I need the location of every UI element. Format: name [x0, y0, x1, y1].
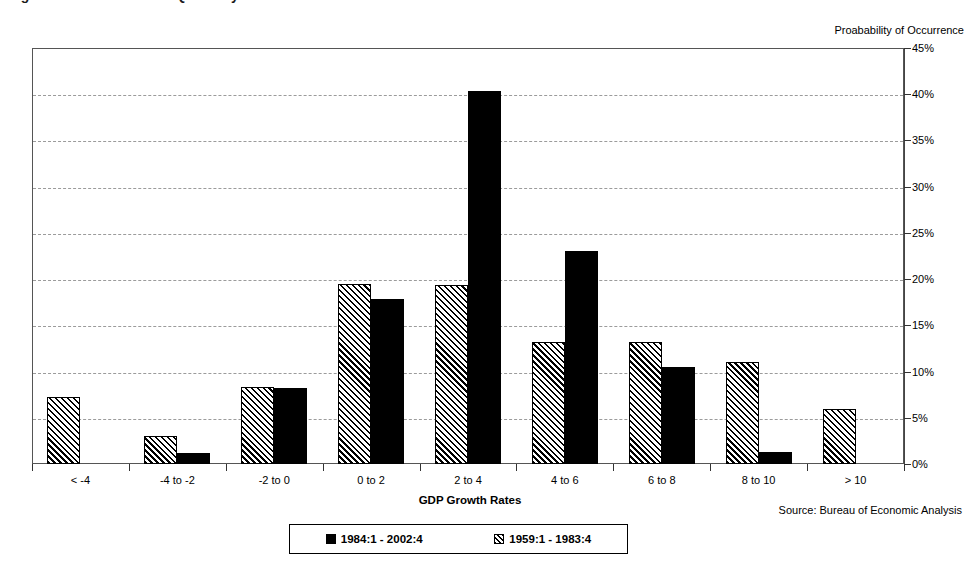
y-axis-title: Proabability of Occurrence — [834, 24, 964, 36]
bars-layer — [32, 48, 904, 464]
x-tick-mark — [323, 464, 324, 471]
x-tick-mark — [904, 464, 905, 471]
y-tick-mark — [904, 48, 911, 49]
y-tick-mark — [904, 325, 911, 326]
bar — [532, 342, 565, 464]
bar — [241, 387, 274, 464]
y-tick-label: 10% — [912, 367, 934, 377]
y-tick-mark — [904, 187, 911, 188]
x-tick-label: 0 to 2 — [357, 474, 385, 486]
x-tick-mark — [226, 464, 227, 471]
y-tick-mark — [904, 94, 911, 95]
bar-group — [32, 48, 129, 464]
y-tick-label: 30% — [912, 182, 934, 192]
legend-swatch-solid-icon — [326, 534, 336, 544]
x-tick-mark — [420, 464, 421, 471]
bar-group — [226, 48, 323, 464]
bar-group — [129, 48, 226, 464]
x-tick-mark — [516, 464, 517, 471]
y-tick-label: 15% — [912, 320, 934, 330]
chart-title: Figure 1. Distribution of Quarterly Real… — [8, 0, 948, 5]
y-tick-mark — [904, 233, 911, 234]
x-tick-label: 6 to 8 — [648, 474, 676, 486]
x-tick-mark — [32, 464, 33, 471]
chart-legend: 1984:1 - 2002:41959:1 - 1983:4 — [289, 524, 628, 554]
bar-group — [420, 48, 517, 464]
bar — [274, 388, 307, 464]
legend-entry[interactable]: 1959:1 - 1983:4 — [494, 533, 591, 545]
y-tick-label: 40% — [912, 89, 934, 99]
x-tick-label: 2 to 4 — [454, 474, 482, 486]
bar — [177, 453, 210, 464]
bar — [662, 367, 695, 464]
y-tick-label: 45% — [912, 43, 934, 53]
x-tick-label: 4 to 6 — [551, 474, 579, 486]
y-axis-line — [904, 48, 905, 465]
bar-group — [613, 48, 710, 464]
x-tick-label: -2 to 0 — [259, 474, 290, 486]
bar — [759, 452, 792, 464]
x-tick-mark — [807, 464, 808, 471]
bar-group — [710, 48, 807, 464]
x-tick-label: > 10 — [845, 474, 867, 486]
bar — [468, 91, 501, 464]
y-tick-mark — [904, 372, 911, 373]
legend-entry[interactable]: 1984:1 - 2002:4 — [326, 533, 423, 545]
x-tick-label: 8 to 10 — [742, 474, 776, 486]
y-tick-mark — [904, 279, 911, 280]
bar-group — [807, 48, 904, 464]
bar — [823, 409, 856, 464]
y-tick-label: 20% — [912, 274, 934, 284]
bar — [144, 436, 177, 464]
bar — [726, 362, 759, 464]
y-tick-mark — [904, 140, 911, 141]
bar — [47, 397, 80, 464]
x-tick-label: < -4 — [71, 474, 90, 486]
bar — [629, 342, 662, 464]
y-tick-label: 35% — [912, 135, 934, 145]
bar — [435, 285, 468, 464]
bar — [565, 251, 598, 464]
x-tick-label: -4 to -2 — [160, 474, 195, 486]
legend-swatch-hatch-icon — [494, 534, 504, 544]
legend-label: 1984:1 - 2002:4 — [341, 533, 423, 545]
bar-group — [516, 48, 613, 464]
y-tick-mark — [904, 418, 911, 419]
y-tick-mark — [904, 464, 911, 465]
y-tick-label: 0% — [912, 459, 928, 469]
bar — [338, 284, 371, 464]
bar-group — [323, 48, 420, 464]
x-tick-mark — [129, 464, 130, 471]
x-tick-mark — [613, 464, 614, 471]
x-tick-mark — [710, 464, 711, 471]
y-tick-label: 5% — [912, 413, 928, 423]
source-note: Source: Bureau of Economic Analysis — [779, 504, 962, 516]
legend-label: 1959:1 - 1983:4 — [509, 533, 591, 545]
bar — [371, 299, 404, 464]
chart-figure: Figure 1. Distribution of Quarterly Real… — [0, 0, 972, 578]
y-tick-label: 25% — [912, 228, 934, 238]
